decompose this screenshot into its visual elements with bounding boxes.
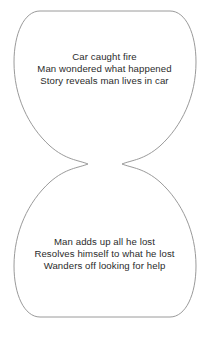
lower-chamber-line-1: Man adds up all he lost [0,236,209,248]
hourglass-diagram: Car caught fire Man wondered what happen… [0,0,209,340]
upper-chamber-line-2: Man wondered what happened [0,63,209,75]
lower-chamber-line-2: Resolves himself to what he lost [0,248,209,260]
lower-chamber-text: Man adds up all he lost Resolves himself… [0,236,209,273]
lower-chamber-line-3: Wanders off looking for help [0,260,209,272]
upper-chamber-line-1: Car caught fire [0,51,209,63]
upper-chamber-line-3: Story reveals man lives in car [0,75,209,87]
upper-chamber-text: Car caught fire Man wondered what happen… [0,51,209,88]
